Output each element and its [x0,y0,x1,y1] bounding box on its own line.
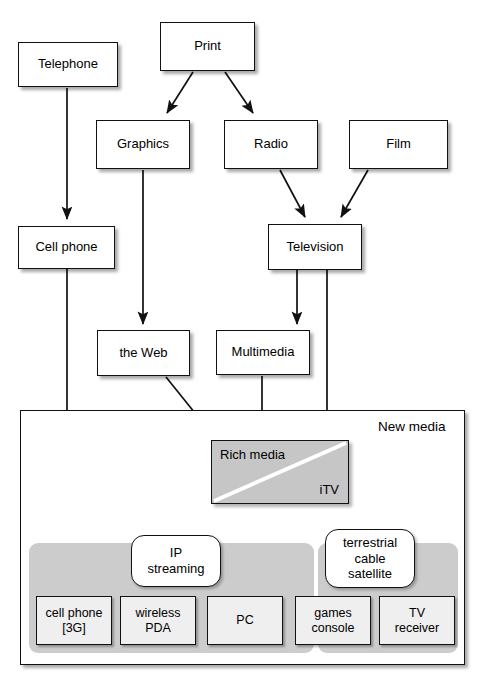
node-telephone[interactable]: Telephone [18,42,118,87]
edge-print-graphics [167,72,193,113]
node-graphics-label: Graphics [117,137,169,152]
node-terrestrial-label: terrestrial cable satellite [343,535,397,582]
node-radio[interactable]: Radio [224,120,318,169]
media-convergence-diagram: New media [0,0,482,678]
node-multimedia[interactable]: Multimedia [216,330,310,375]
node-print[interactable]: Print [160,22,255,71]
node-cell-phone[interactable]: Cell phone [18,226,115,269]
node-film-label: Film [386,137,411,152]
node-film[interactable]: Film [349,120,448,169]
node-the-web[interactable]: the Web [97,330,190,376]
node-pc-label: PC [236,613,253,628]
new-media-label: New media [378,419,446,434]
node-cell-phone-3g[interactable]: cell phone [3G] [36,596,112,645]
edge-film-television [341,170,368,217]
node-wireless-pda-label: wireless PDA [135,606,180,636]
node-television-label: Television [286,240,343,255]
node-cell-phone-label: Cell phone [35,240,97,255]
node-rich-media-itv[interactable]: Rich media iTV [211,440,349,504]
edge-print-radio [225,72,253,113]
node-multimedia-label: Multimedia [232,345,295,360]
node-terrestrial-cable-satellite[interactable]: terrestrial cable satellite [325,529,415,588]
node-games-console[interactable]: games console [295,596,371,645]
node-ip-streaming[interactable]: IP streaming [131,535,221,587]
node-cell-phone-3g-label: cell phone [3G] [46,606,103,636]
node-wireless-pda[interactable]: wireless PDA [120,596,196,645]
node-ip-streaming-label: IP streaming [147,545,204,576]
node-print-label: Print [194,39,221,54]
node-television[interactable]: Television [268,224,362,270]
node-the-web-label: the Web [119,346,167,361]
itv-label: iTV [320,482,340,497]
node-radio-label: Radio [254,137,288,152]
node-telephone-label: Telephone [38,57,98,72]
rich-media-label: Rich media [220,447,285,462]
node-tv-receiver[interactable]: TV receiver [379,596,455,645]
node-tv-receiver-label: TV receiver [395,606,439,636]
node-games-console-label: games console [311,606,354,636]
node-graphics[interactable]: Graphics [96,120,190,169]
node-pc[interactable]: PC [207,596,283,645]
edge-radio-television [280,170,305,217]
